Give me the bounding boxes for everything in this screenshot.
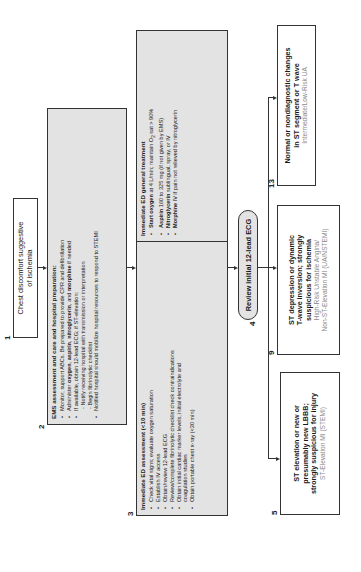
ed-treatment-item: Morphine IV if pain not relieved by nitr… bbox=[172, 34, 179, 236]
step-4-review-ecg-oval: Review initial 12-lead ECG bbox=[238, 210, 258, 320]
ed-treatment-title: Immediate ED general treatment bbox=[140, 34, 147, 236]
step-1-line2: of ischemia bbox=[26, 249, 35, 286]
ed-assessment-item: Obtain initial cardiac marker levels, in… bbox=[176, 247, 183, 510]
step-1-chest-discomfort-box: Chest discomfort suggestive of ischemia bbox=[13, 198, 38, 338]
step-13-number: 13 bbox=[267, 179, 276, 188]
connector-4-branch bbox=[258, 267, 268, 268]
ems-title: EMS assessment and care and hospital pre… bbox=[51, 114, 58, 419]
stemi-classification: ST-Elevation MI (STEMI) bbox=[319, 407, 327, 480]
step-3-number: 3 bbox=[126, 512, 135, 516]
step-9-nstemi-box: ST depression or dynamic T-wave inversio… bbox=[277, 205, 340, 355]
ed-treatment-list: Start oxygen at 4 L/min; maintain O2 sat… bbox=[148, 34, 179, 236]
nstemi-classification-1: High-Risk Unstable Angina/ bbox=[313, 240, 321, 320]
ems-item: Administer oxygen, aspirin, nitroglyceri… bbox=[66, 114, 73, 419]
ed-assessment-item-continued: coagulation studies bbox=[182, 247, 189, 510]
ed-treatment-item: Start oxygen at 4 L/min; maintain O2 sat… bbox=[148, 34, 158, 236]
step-13-low-risk-box: Normal or nondiagnostic changes in ST se… bbox=[277, 25, 316, 186]
ed-assessment-title: Immediate ED assessment (<10 min) bbox=[140, 247, 147, 510]
ems-item: Notified hospital should mobilize hospit… bbox=[93, 114, 100, 419]
step-5-stemi-box: ST elevation or new or presumably new LB… bbox=[280, 372, 340, 515]
ems-subitem: - Notify receiving hospital with transmi… bbox=[80, 114, 87, 419]
step-3-ed-box: Immediate ED assessment (<10 min) Check … bbox=[136, 30, 228, 516]
ed-assessment-item: Obtain/review 12-lead ECG bbox=[162, 247, 169, 510]
ed-treatment-item: Nitroglycerin sublingual, spray, or IV bbox=[165, 34, 172, 236]
step-2-ems-box: EMS assessment and care and hospital pre… bbox=[47, 108, 127, 425]
step-9-number: 9 bbox=[267, 351, 276, 355]
ed-assessment-list: Check vital signs; evaluate oxygen satur… bbox=[148, 247, 196, 510]
review-ecg-label: Review initial 12-lead ECG bbox=[244, 219, 253, 311]
low-risk-classification: Intermediate/Low-Risk UA bbox=[301, 67, 309, 144]
step-5-number: 5 bbox=[270, 511, 279, 515]
nstemi-line3: suspicious for ischemia bbox=[305, 239, 313, 321]
step-1-number: 1 bbox=[3, 336, 12, 340]
stemi-line3: strongly suspicious for injury bbox=[310, 393, 318, 494]
ems-item: If available, obtain 12-lead ECG; if ST-… bbox=[73, 114, 80, 419]
low-risk-line2: in ST segment or T wave bbox=[293, 63, 301, 147]
ed-treatment-section: Immediate ED general treatment Start oxy… bbox=[137, 29, 229, 241]
ed-assessment-item: Establish IV access bbox=[155, 247, 162, 510]
nstemi-classification-2: Non-ST-Elevation MI (UA/NSTEMI) bbox=[321, 229, 329, 332]
ed-assessment-section: Immediate ED assessment (<10 min) Check … bbox=[137, 242, 229, 515]
ems-item-list: Monitor, support ABCs. Be prepared to pr… bbox=[59, 114, 100, 419]
acs-algorithm-flowchart: 1 Chest discomfort suggestive of ischemi… bbox=[0, 0, 361, 572]
branch-connector-line bbox=[268, 98, 269, 459]
ed-section-divider bbox=[137, 241, 227, 242]
ed-assessment-item: Obtain portable chest x-ray (<30 min) bbox=[189, 247, 196, 510]
ed-assessment-item: Check vital signs; evaluate oxygen satur… bbox=[148, 247, 155, 510]
ed-treatment-item: Aspirin 160 to 325 mg (if not given by E… bbox=[158, 34, 165, 236]
ems-item: Monitor, support ABCs. Be prepared to pr… bbox=[59, 114, 66, 419]
step-4-number: 4 bbox=[248, 322, 257, 326]
ems-subitem: - Begin fibrinolytic checklist bbox=[87, 114, 94, 419]
step-2-number: 2 bbox=[37, 425, 46, 429]
ed-assessment-item: Review/complete fibrinolytic checklist c… bbox=[169, 247, 176, 510]
